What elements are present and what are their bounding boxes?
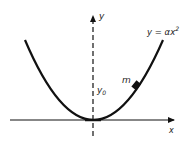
mass-block [131, 80, 141, 90]
parabola-diagram: y y = αx2 m y0 x [0, 0, 189, 142]
height-label: y0 [96, 85, 106, 96]
mass-label: m [122, 75, 131, 85]
curve-label: y = αx2 [146, 25, 179, 37]
x-axis-label: x [168, 126, 174, 135]
parabola-curve [25, 40, 163, 120]
y-axis-label: y [98, 11, 105, 21]
